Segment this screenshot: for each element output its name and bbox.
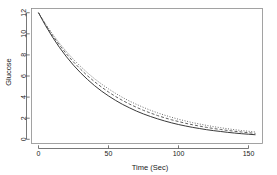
x-tick-label: 50 bbox=[105, 150, 113, 157]
chart-figure: 024681012 050100150 Time (Sec) Glucose bbox=[0, 0, 277, 175]
x-tick-label: 150 bbox=[243, 150, 255, 157]
x-axis-title: Time (Sec) bbox=[132, 163, 169, 172]
y-tick-label: 4 bbox=[20, 95, 27, 99]
x-tick-label: 0 bbox=[37, 150, 41, 157]
y-tick-label: 12 bbox=[20, 9, 27, 17]
y-tick-label: 2 bbox=[20, 116, 27, 120]
y-axis-title: Glucose bbox=[4, 58, 13, 86]
y-tick-label: 8 bbox=[20, 53, 27, 57]
x-tick-label: 100 bbox=[173, 150, 185, 157]
y-tick-label: 10 bbox=[20, 30, 27, 38]
glucose-decay-chart: 024681012 050100150 Time (Sec) Glucose bbox=[0, 0, 277, 175]
y-tick-label: 6 bbox=[20, 74, 27, 78]
y-tick-label: 0 bbox=[20, 137, 27, 141]
